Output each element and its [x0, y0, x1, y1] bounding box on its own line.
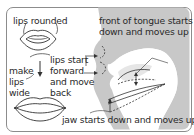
label-and-move: and move [50, 77, 94, 87]
label-lips-rounded: lips rounded [13, 16, 67, 26]
rounded-lips-icon [20, 30, 56, 50]
label-back: back [50, 88, 71, 98]
label-tongue-line1: front of tongue starts [99, 16, 193, 26]
label-make: make [9, 66, 33, 76]
label-forward: forward [50, 66, 84, 76]
wide-lips-icon [15, 98, 65, 121]
label-lips: lips [9, 77, 24, 87]
label-lips-start: lips start [50, 55, 88, 65]
label-jaw: jaw starts down and moves up [62, 115, 194, 125]
label-wide: wide [9, 88, 30, 98]
label-tongue-line2: down and moves up [99, 27, 189, 37]
